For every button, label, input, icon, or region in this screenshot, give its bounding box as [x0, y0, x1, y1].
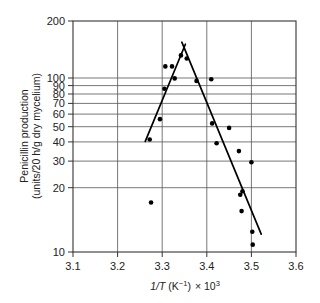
- data-points: [147, 53, 255, 247]
- x-axis-power: 3: [216, 279, 220, 288]
- chart-canvas: 200 100 90 80 70 60 50 40 30 20 10 3.1 3…: [0, 0, 320, 303]
- xtick-label-3.4: 3.4: [199, 260, 214, 272]
- data-point: [147, 137, 152, 142]
- y-tickmarks: [68, 21, 73, 252]
- plot-frame: [73, 21, 296, 252]
- data-point: [172, 76, 177, 81]
- data-point: [214, 141, 219, 146]
- fit-line-descending-branch: [182, 42, 261, 234]
- data-point: [158, 117, 163, 122]
- data-point: [239, 209, 244, 214]
- data-point: [227, 126, 232, 131]
- data-point: [184, 56, 189, 61]
- x-axis-variable: 1/T: [150, 280, 167, 292]
- y-tick-labels: 200 100 90 80 70 60 50 40 30 20 10: [47, 15, 65, 258]
- ytick-label-200: 200: [47, 15, 65, 27]
- data-point: [163, 64, 168, 69]
- ytick-label-10: 10: [53, 246, 65, 258]
- y-axis-title-line1: Penicillin production: [18, 89, 30, 183]
- xtick-label-3.1: 3.1: [65, 260, 80, 272]
- x-axis-units-close: ): [187, 280, 191, 292]
- ytick-label-40: 40: [53, 136, 65, 148]
- data-point: [149, 200, 154, 205]
- ytick-label-20: 20: [53, 182, 65, 194]
- x-tickmarks: [73, 252, 296, 257]
- xtick-label-3.2: 3.2: [110, 260, 125, 272]
- vertical-gridlines: [118, 21, 252, 252]
- ytick-label-50: 50: [53, 121, 65, 133]
- xtick-label-3.3: 3.3: [155, 260, 170, 272]
- data-point: [209, 77, 214, 82]
- x-tick-labels: 3.1 3.2 3.3 3.4 3.5 3.6: [65, 260, 303, 272]
- fit-lines: [145, 42, 261, 234]
- data-point: [170, 64, 175, 69]
- data-point: [250, 242, 255, 247]
- data-point: [240, 189, 245, 194]
- data-point: [179, 53, 184, 58]
- data-point: [237, 149, 242, 154]
- y-axis-title: Penicillin production (units/20 h/g dry …: [18, 73, 42, 199]
- data-point: [194, 79, 199, 84]
- x-axis-title: 1/T(K−1)× 103: [150, 279, 220, 293]
- data-point: [249, 160, 254, 165]
- data-point: [162, 87, 167, 92]
- x-axis-times: × 10: [195, 280, 216, 292]
- x-axis-unit-exponent: −1: [179, 279, 188, 288]
- data-point: [250, 229, 255, 234]
- y-axis-title-line2: (units/20 h/g dry mycelium): [30, 73, 42, 199]
- x-axis-units-open: (K: [168, 280, 179, 292]
- ytick-label-60: 60: [53, 108, 65, 120]
- horizontal-gridlines: [73, 78, 296, 188]
- ytick-label-30: 30: [53, 155, 65, 167]
- xtick-label-3.6: 3.6: [288, 260, 303, 272]
- data-point: [210, 121, 215, 126]
- xtick-label-3.5: 3.5: [244, 260, 259, 272]
- svg-text:1/T(K−1)× 103: 1/T(K−1)× 103: [150, 279, 220, 293]
- penicillin-production-chart: 200 100 90 80 70 60 50 40 30 20 10 3.1 3…: [0, 0, 320, 303]
